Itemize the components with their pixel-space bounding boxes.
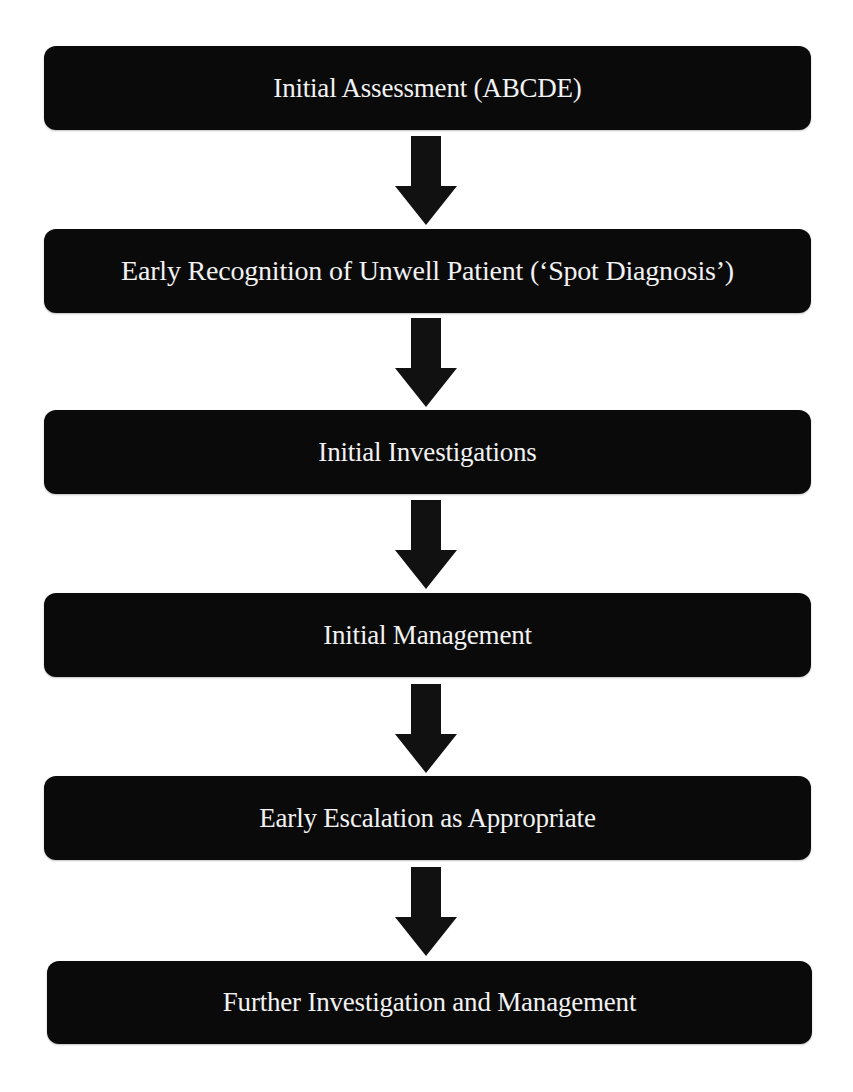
- step-label: Initial Assessment (ABCDE): [273, 73, 581, 104]
- step-label: Initial Investigations: [318, 437, 536, 468]
- down-arrow-icon: [395, 136, 457, 225]
- step-initial-management: Initial Management: [44, 593, 811, 677]
- step-initial-investigations: Initial Investigations: [44, 410, 811, 494]
- down-arrow-icon: [395, 500, 457, 589]
- step-further-investigation: Further Investigation and Management: [47, 961, 812, 1044]
- step-label: Initial Management: [323, 620, 532, 651]
- step-label: Early Recognition of Unwell Patient (‘Sp…: [121, 255, 734, 287]
- step-label: Early Escalation as Appropriate: [259, 803, 595, 834]
- down-arrow-icon: [395, 318, 457, 407]
- step-early-recognition: Early Recognition of Unwell Patient (‘Sp…: [44, 229, 811, 313]
- step-initial-assessment: Initial Assessment (ABCDE): [44, 46, 811, 130]
- step-label: Further Investigation and Management: [223, 987, 636, 1018]
- down-arrow-icon: [395, 867, 457, 956]
- step-early-escalation: Early Escalation as Appropriate: [44, 776, 811, 860]
- down-arrow-icon: [395, 684, 457, 773]
